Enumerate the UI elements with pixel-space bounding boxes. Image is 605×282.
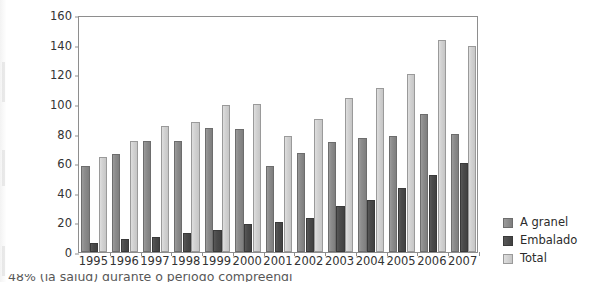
bar-group-2006	[420, 17, 446, 252]
legend-swatch-icon	[503, 218, 513, 228]
bar	[297, 153, 305, 252]
chart-legend: A granelEmbaladoTotal	[503, 214, 577, 268]
figure-caption: 48% (la salud) durante o período compree…	[0, 274, 605, 282]
bar	[121, 239, 129, 252]
bar-group-2000	[235, 17, 261, 252]
legend-swatch-icon	[503, 254, 513, 264]
bar-chart-figure: 020406080100120140160 199519961997199819…	[0, 0, 605, 282]
bar-group-2005	[389, 17, 415, 252]
legend-swatch-icon	[503, 236, 513, 246]
x-axis-tick-mark	[479, 252, 480, 256]
bar-group-2001	[266, 17, 292, 252]
bar	[213, 230, 221, 252]
bar-group-2003	[328, 17, 354, 252]
bar-group-2004	[358, 17, 384, 252]
legend-item-total: Total	[503, 250, 577, 268]
legend-item-label: Embalado	[520, 235, 577, 247]
bar	[143, 141, 151, 252]
bar	[253, 104, 261, 252]
bar	[438, 40, 446, 252]
bar	[460, 163, 468, 252]
bar	[174, 141, 182, 252]
bar	[222, 105, 230, 252]
bar-group-1999	[205, 17, 231, 252]
x-axis-label-2001: 2001	[263, 256, 294, 268]
x-axis-label-2003: 2003	[324, 256, 355, 268]
bar	[376, 88, 384, 252]
bar	[345, 98, 353, 252]
bar	[90, 243, 98, 252]
bar	[152, 237, 160, 252]
legend-item-granel: A granel	[503, 214, 577, 232]
bar	[336, 206, 344, 252]
bar	[429, 175, 437, 252]
x-axis-label-2000: 2000	[232, 256, 263, 268]
x-axis-label-2002: 2002	[293, 256, 324, 268]
x-axis-label-2007: 2007	[447, 256, 478, 268]
bar	[451, 134, 459, 253]
bar	[468, 46, 476, 252]
bar-group-1998	[174, 17, 200, 252]
bar	[275, 222, 283, 252]
x-axis-label-1999: 1999	[201, 256, 232, 268]
bar	[420, 114, 428, 252]
legend-item-label: Total	[520, 253, 547, 265]
bar	[314, 119, 322, 252]
bar	[407, 74, 415, 252]
x-axis-label-1997: 1997	[140, 256, 171, 268]
bar	[183, 233, 191, 252]
x-axis-label-1995: 1995	[78, 256, 109, 268]
bar-group-1995	[81, 17, 107, 252]
bar-group-2002	[297, 17, 323, 252]
bar-series-container	[79, 17, 477, 252]
plot-area: 020406080100120140160	[78, 16, 478, 253]
legend-item-embalado: Embalado	[503, 232, 577, 250]
legend-item-label: A granel	[520, 217, 568, 229]
bar	[266, 166, 274, 252]
bar	[328, 142, 336, 252]
x-axis-label-2006: 2006	[416, 256, 447, 268]
bar	[398, 188, 406, 252]
bar	[306, 218, 314, 252]
bar-group-1996	[112, 17, 138, 252]
bar	[81, 166, 89, 252]
bar	[161, 126, 169, 252]
bar	[358, 138, 366, 252]
bar	[389, 136, 397, 252]
bar	[191, 122, 199, 252]
bar-group-1997	[143, 17, 169, 252]
x-axis-label-1996: 1996	[109, 256, 140, 268]
bar	[284, 136, 292, 252]
bar	[99, 157, 107, 252]
x-axis-label-1998: 1998	[170, 256, 201, 268]
bar	[244, 224, 252, 252]
x-axis-label-2005: 2005	[386, 256, 417, 268]
bar	[367, 200, 375, 252]
bar	[130, 141, 138, 252]
x-axis-label-2004: 2004	[355, 256, 386, 268]
bar-group-2007	[451, 17, 477, 252]
bar	[112, 154, 120, 252]
bar	[205, 128, 213, 252]
figure-caption-text: 48% (la salud) durante o período compree…	[8, 274, 293, 282]
bar	[235, 129, 243, 252]
